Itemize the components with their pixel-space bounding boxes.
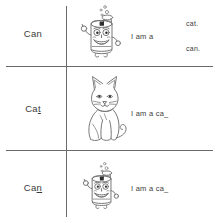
- worksheet-row-1: Can: [0, 0, 219, 66]
- answer-branch-lines: [163, 19, 187, 57]
- sentence-1: I am a: [131, 32, 153, 41]
- word-label-1-plain: Can: [24, 28, 42, 39]
- word-cell-3: Can: [0, 151, 66, 223]
- word-label-3: Can: [24, 182, 42, 193]
- worksheet-row-2: Cat: [0, 67, 219, 150]
- word-label-2: Cat: [25, 103, 41, 114]
- branch-choice-can[interactable]: can.: [186, 45, 200, 52]
- word-label-3-plain: Ca: [24, 182, 37, 193]
- word-label-3-underlined: n: [37, 182, 43, 193]
- sentence-2: I am a ca_: [131, 109, 169, 118]
- word-cell-2: Cat: [0, 67, 66, 150]
- word-label-2-plain: Ca: [25, 103, 38, 114]
- word-cell-1: Can: [0, 0, 66, 66]
- worksheet-row-3: Can: [0, 151, 219, 223]
- worksheet-page: Can: [0, 0, 219, 223]
- illustration-can-2: [74, 151, 130, 223]
- branch-choice-cat[interactable]: cat.: [186, 20, 198, 27]
- word-label-2-underlined: t: [38, 103, 41, 114]
- word-label-1: Can: [24, 28, 42, 39]
- sentence-3: I am a ca_: [131, 184, 169, 193]
- illustration-cat: [74, 67, 134, 150]
- illustration-can-1: [74, 0, 130, 66]
